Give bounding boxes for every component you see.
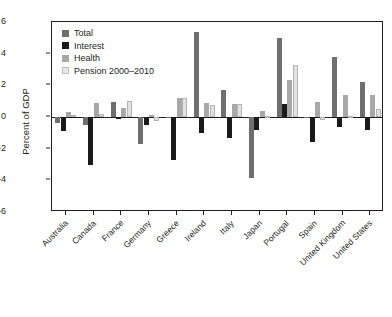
bar-japan-pension (265, 116, 270, 118)
bar-united-states-pension (376, 109, 381, 117)
bar-greece-health (177, 98, 182, 117)
bar-united-kingdom-interest (337, 117, 342, 127)
x-axis-tick-mark (286, 211, 287, 215)
x-axis-tick-mark (176, 211, 177, 215)
bar-australia-total (55, 117, 60, 123)
x-axis-label-greece: Greece (154, 218, 181, 245)
bar-united-states-total (360, 82, 365, 117)
x-axis-tick-mark (231, 211, 232, 215)
legend-label-pension: Pension 2000–2010 (74, 66, 154, 76)
bar-italy-health (232, 104, 237, 117)
x-axis-tick-mark (314, 211, 315, 215)
x-axis-tick-mark (203, 211, 204, 215)
legend-item-pension: Pension 2000–2010 (62, 66, 154, 76)
x-axis-tick-mark (259, 211, 260, 215)
x-axis-tick-mark (120, 211, 121, 215)
zero-baseline (52, 117, 382, 118)
bar-spain-pension (320, 117, 325, 120)
x-axis-tick-mark (148, 211, 149, 215)
chart-container: Percent of GDP 6420-2-4-6 AustraliaCanad… (0, 0, 392, 317)
bar-united-kingdom-health (343, 95, 348, 117)
bar-greece-pension (182, 98, 187, 117)
x-axis-tick-mark (369, 211, 370, 215)
bar-france-pension (127, 101, 132, 117)
bar-japan-interest (254, 117, 259, 130)
legend-item-interest: Interest (62, 41, 154, 51)
bar-japan-health (260, 111, 265, 117)
bar-australia-interest (61, 117, 66, 131)
legend-swatch-health-icon (62, 55, 69, 62)
bar-japan-total (249, 117, 254, 178)
x-axis-tick-mark (65, 211, 66, 215)
bar-united-kingdom-total (332, 57, 337, 117)
x-axis-tick-mark (342, 211, 343, 215)
bar-portugal-interest (282, 104, 287, 117)
bar-canada-pension (99, 114, 104, 117)
bar-ireland-total (194, 32, 199, 118)
legend-swatch-interest-icon (62, 42, 69, 49)
bar-germany-interest (144, 117, 149, 125)
x-axis-label-canada: Canada (69, 218, 97, 246)
x-axis-label-germany: Germany (121, 218, 153, 250)
bar-canada-total (83, 117, 88, 125)
bar-australia-pension (71, 115, 76, 117)
y-axis-tick-label: 2 (0, 79, 6, 89)
y-axis-tick-mark (46, 116, 50, 117)
bar-germany-total (138, 117, 143, 144)
legend-label-total: Total (74, 28, 93, 38)
bar-france-interest (116, 117, 121, 119)
bar-spain-interest (310, 117, 315, 142)
y-axis-tick-label: 6 (0, 16, 6, 26)
bar-australia-health (66, 112, 71, 117)
bar-france-total (111, 102, 116, 117)
bar-germany-health (149, 115, 154, 117)
bar-canada-health (94, 103, 99, 117)
bar-united-kingdom-pension (348, 116, 353, 118)
y-axis-tick-label: -6 (0, 206, 6, 216)
legend-swatch-pension-icon (62, 67, 69, 74)
bar-greece-interest (171, 117, 176, 160)
x-axis-label-portugal: Portugal (262, 218, 291, 247)
x-axis-label-france: France (100, 218, 126, 244)
bar-italy-interest (227, 117, 232, 138)
x-axis-label-italy: Italy (218, 218, 236, 236)
x-axis-label-ireland: Ireland (183, 218, 208, 243)
bar-portugal-total (277, 38, 282, 117)
x-axis-label-australia: Australia (39, 218, 69, 248)
bar-germany-pension (154, 117, 159, 121)
bar-united-states-interest (365, 117, 370, 130)
y-axis-tick-mark (46, 179, 50, 180)
x-axis-label-japan: Japan (240, 218, 263, 241)
y-axis-tick-mark (46, 52, 50, 53)
y-axis-tick-label: -2 (0, 143, 6, 153)
x-axis-label-spain: Spain (296, 218, 318, 240)
bar-portugal-health (287, 80, 292, 117)
bar-spain-total (304, 117, 309, 118)
bar-italy-pension (237, 104, 242, 117)
legend-item-total: Total (62, 28, 154, 38)
y-axis-tick-mark (46, 147, 50, 148)
bar-france-health (121, 108, 126, 118)
y-axis-label: Percent of GDP (20, 47, 31, 197)
legend-swatch-total-icon (62, 30, 69, 37)
bar-canada-interest (88, 117, 93, 165)
bar-ireland-pension (210, 105, 215, 117)
y-axis-tick-label: 0 (0, 111, 6, 121)
bar-ireland-interest (199, 117, 204, 133)
y-axis-tick-label: 4 (0, 48, 6, 58)
y-axis-tick-mark (46, 84, 50, 85)
bar-united-states-health (370, 95, 375, 117)
y-axis-tick-label: -4 (0, 174, 6, 184)
legend-label-interest: Interest (74, 41, 104, 51)
bar-portugal-pension (293, 65, 298, 117)
bar-spain-health (315, 102, 320, 117)
chart-legend: Total Interest Health Pension 2000–2010 (62, 28, 154, 76)
x-axis-tick-mark (93, 211, 94, 215)
bar-greece-total (166, 117, 171, 118)
bar-italy-total (221, 90, 226, 117)
bar-ireland-health (204, 103, 209, 117)
legend-item-health: Health (62, 53, 154, 63)
legend-label-health: Health (74, 53, 100, 63)
